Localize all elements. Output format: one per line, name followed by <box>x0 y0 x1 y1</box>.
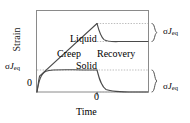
eq-subscript: eq <box>172 29 178 36</box>
y-tick-sigma-jeq: σJeq <box>5 61 20 71</box>
brace-label-liquid-sigma-jeq: σJeq <box>163 26 178 36</box>
solid-creep-curve <box>37 70 97 92</box>
brace-liquid-recoverable <box>152 24 157 42</box>
x-tick-zero: 0 <box>94 91 99 102</box>
annotation-recovery: Recovery <box>97 48 135 59</box>
x-axis-label: Time <box>76 106 97 117</box>
annotation-solid: Solid <box>76 60 97 71</box>
solid-recovery-curve <box>97 70 148 92</box>
liquid-recovery-curve <box>97 24 148 42</box>
eq-subscript: eq <box>14 64 20 71</box>
eq-subscript: eq <box>172 84 178 91</box>
brace-label-solid-sigma-jeq: σJeq <box>163 81 178 91</box>
annotation-liquid: Liquid <box>70 33 97 44</box>
creep-recovery-figure: Strain σJeq 0 0 Time Liquid Creep Recove… <box>0 0 190 123</box>
brace-solid-recoverable <box>152 70 157 92</box>
y-tick-zero: 0 <box>27 77 32 88</box>
annotation-creep: Creep <box>57 48 81 59</box>
